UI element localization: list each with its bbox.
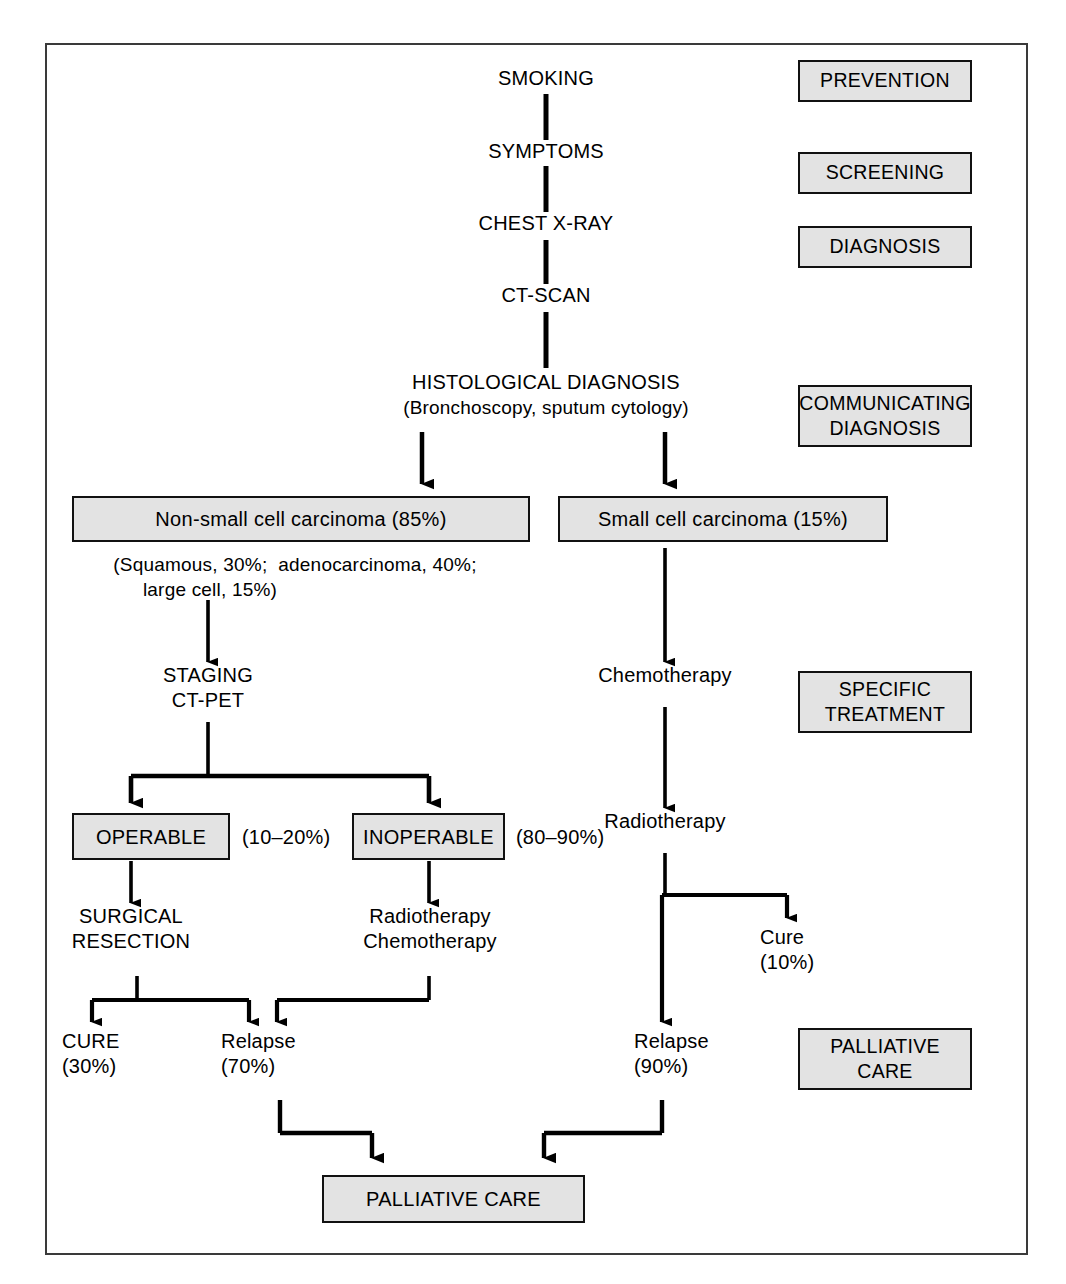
node-sclc-chemotherapy: Chemotherapy — [575, 663, 755, 687]
box-palliative-care-outcome: PALLIATIVE CARE — [322, 1175, 585, 1223]
node-histological-diagnosis-subtitle: (Bronchoscopy, sputum cytology) — [346, 396, 746, 419]
node-inoperable-treatment-line2: Chemotherapy — [355, 929, 505, 953]
box-operable: OPERABLE — [72, 813, 230, 860]
node-sclc-relapse-percentage: (90%) — [634, 1054, 754, 1078]
node-nsclc-cure: CURE — [62, 1029, 172, 1053]
stage-label-diagnosis: DIAGNOSIS — [798, 226, 972, 268]
node-smoking: SMOKING — [446, 66, 646, 90]
node-inoperable-treatment-line1: Radiotherapy — [355, 904, 505, 928]
node-staging-line2: CT-PET — [108, 688, 308, 712]
node-nsclc-subtypes-line2: large cell, 15%) — [60, 578, 360, 601]
node-nsclc-subtypes-line1: (Squamous, 30%; adenocarcinoma, 40%; — [60, 553, 530, 576]
stage-label-communicating-diagnosis: COMMUNICATING DIAGNOSIS — [798, 385, 972, 447]
box-small-cell-carcinoma: Small cell carcinoma (15%) — [558, 496, 888, 542]
stage-label-screening: SCREENING — [798, 152, 972, 194]
box-non-small-cell-carcinoma: Non-small cell carcinoma (85%) — [72, 496, 530, 542]
node-symptoms: SYMPTOMS — [446, 139, 646, 163]
node-sclc-relapse: Relapse — [634, 1029, 754, 1053]
node-sclc-cure: Cure — [760, 925, 880, 949]
node-surgical-resection-line2: RESECTION — [41, 929, 221, 953]
node-staging-line1: STAGING — [108, 663, 308, 687]
label-operable-percentage: (10–20%) — [242, 825, 362, 849]
node-nsclc-cure-percentage: (30%) — [62, 1054, 172, 1078]
node-nsclc-relapse: Relapse — [221, 1029, 341, 1053]
node-nsclc-relapse-percentage: (70%) — [221, 1054, 341, 1078]
diagram-canvas: SMOKING SYMPTOMS CHEST X-RAY CT-SCAN HIS… — [0, 0, 1066, 1284]
stage-label-specific-treatment: SPECIFIC TREATMENT — [798, 671, 972, 733]
node-ct-scan: CT-SCAN — [446, 283, 646, 307]
stage-label-palliative-care: PALLIATIVE CARE — [798, 1028, 972, 1090]
node-surgical-resection-line1: SURGICAL — [41, 904, 221, 928]
stage-label-prevention: PREVENTION — [798, 60, 972, 102]
node-histological-diagnosis: HISTOLOGICAL DIAGNOSIS — [366, 370, 726, 394]
box-inoperable: INOPERABLE — [352, 813, 505, 860]
node-chest-xray: CHEST X-RAY — [436, 211, 656, 235]
node-sclc-radiotherapy: Radiotherapy — [575, 809, 755, 833]
node-sclc-cure-percentage: (10%) — [760, 950, 880, 974]
